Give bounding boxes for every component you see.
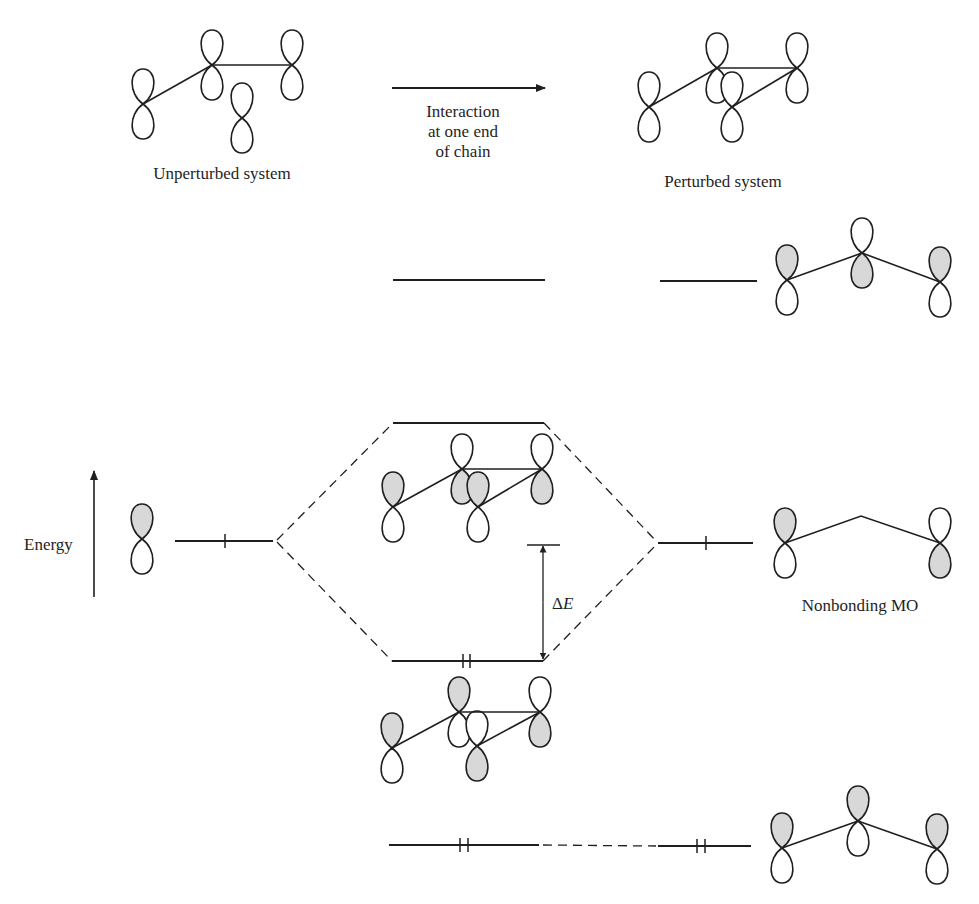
lower-level-correlation xyxy=(543,845,656,846)
upper-lobe xyxy=(382,472,404,507)
allyl-antibonding-mo xyxy=(776,218,951,317)
bonding-level xyxy=(392,654,543,668)
lower-lobe xyxy=(467,507,489,542)
lower-lobe xyxy=(721,107,743,142)
delta-e-label: ΔE xyxy=(552,594,574,613)
upper-lobe xyxy=(451,434,473,469)
nonbonding-mo-label: Nonbonding MO xyxy=(802,596,919,615)
orbital-diagrams xyxy=(131,30,951,884)
upper-lobe xyxy=(706,33,728,68)
mo-perturbation-diagram: Unperturbed system Perturbed system Inte… xyxy=(0,0,979,904)
perturbed-antibonding-mo xyxy=(382,434,553,542)
upper-lobe xyxy=(771,813,793,848)
lower-lobe xyxy=(529,712,551,747)
upper-lobe xyxy=(448,677,470,712)
single-p-orbital xyxy=(131,504,153,574)
perturbed-lower-level xyxy=(658,839,751,853)
lower-lobe xyxy=(851,253,873,288)
upper-lobe xyxy=(929,247,951,282)
upper-lobe xyxy=(851,218,873,253)
diagram-canvas: Unperturbed system Perturbed system Inte… xyxy=(0,0,979,904)
p-orbital-level xyxy=(175,534,273,548)
nonbonding-mo xyxy=(774,508,951,578)
bond-skeleton xyxy=(785,516,940,543)
nonbonding-level xyxy=(658,536,753,550)
lower-lobe xyxy=(382,507,404,542)
p-orbital xyxy=(131,504,153,574)
upper-lobe xyxy=(231,83,253,118)
upper-lobe xyxy=(929,508,951,543)
lower-lobe xyxy=(231,118,253,153)
upper-lobe xyxy=(786,33,808,68)
unperturbed-lower-level xyxy=(389,838,539,852)
lower-lobe xyxy=(638,107,660,142)
upper-lobe xyxy=(926,814,948,849)
upper-lobe xyxy=(847,786,869,821)
perturbed-system-label: Perturbed system xyxy=(664,172,782,191)
upper-lobe xyxy=(774,508,796,543)
lower-lobe xyxy=(926,849,948,884)
energy-axis-label: Energy xyxy=(24,535,73,554)
energy-variable: E xyxy=(562,594,574,613)
interaction-label-line-2: at one end xyxy=(428,122,498,141)
delta-symbol: Δ xyxy=(552,594,563,613)
perturbed-system-orbitals xyxy=(638,33,808,142)
lower-lobe xyxy=(131,539,153,574)
bond-line xyxy=(862,253,940,282)
allyl-bonding-mo xyxy=(771,786,948,884)
lower-lobe xyxy=(929,543,951,578)
lower-lobe xyxy=(847,821,869,856)
p-to-antibonding xyxy=(277,423,393,540)
lower-lobe xyxy=(132,104,154,139)
lower-lobe xyxy=(771,848,793,883)
bond-line xyxy=(858,821,937,849)
interaction-label-line-1: Interaction xyxy=(426,102,500,121)
unperturbed-system-orbitals xyxy=(132,30,303,153)
p-to-bonding xyxy=(277,542,392,661)
perturbed-bonding-mo xyxy=(381,677,551,783)
upper-lobe xyxy=(381,713,403,748)
upper-lobe xyxy=(529,677,551,712)
lower-lobe xyxy=(381,748,403,783)
upper-lobe xyxy=(776,245,798,280)
antibonding-to-nonbonding xyxy=(544,423,657,542)
lower-lobe xyxy=(201,65,223,100)
interaction-label-line-3: of chain xyxy=(435,142,491,161)
upper-lobe xyxy=(281,30,303,65)
lower-lobe xyxy=(776,280,798,315)
lower-lobe xyxy=(281,65,303,100)
p-orbital xyxy=(231,83,253,153)
unperturbed-system-label: Unperturbed system xyxy=(153,164,290,183)
lower-lobe xyxy=(929,282,951,317)
upper-lobe xyxy=(466,711,488,746)
upper-lobe xyxy=(531,434,553,469)
lower-lobe xyxy=(466,746,488,781)
upper-lobe xyxy=(131,504,153,539)
lower-lobe xyxy=(774,543,796,578)
upper-lobe xyxy=(201,30,223,65)
upper-lobe xyxy=(132,69,154,104)
